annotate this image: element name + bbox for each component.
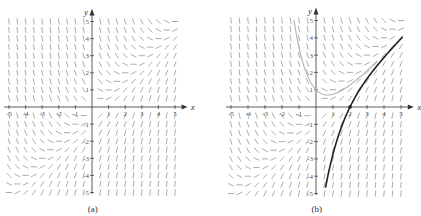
slope-segment <box>82 147 85 153</box>
slope-segment <box>48 165 52 170</box>
slope-segment <box>49 113 52 119</box>
slope-segment <box>66 87 68 93</box>
slope-segment <box>288 140 294 143</box>
slope-segment <box>231 69 232 75</box>
slope-segment <box>158 147 159 153</box>
slope-segment <box>157 78 159 84</box>
slope-segment <box>66 78 68 84</box>
slope-segment <box>273 95 275 101</box>
slope-segment <box>307 43 309 49</box>
slope-segment <box>131 45 135 50</box>
slope-segment <box>246 148 250 153</box>
slope-segment <box>17 112 19 118</box>
slope-segment <box>173 36 177 41</box>
slope-segment <box>17 78 18 84</box>
slope-segment <box>175 147 176 153</box>
slope-segment <box>125 147 126 153</box>
slope-segment <box>50 70 51 76</box>
slope-segment <box>65 156 68 161</box>
slope-segment <box>231 52 232 58</box>
slope-segment <box>264 52 265 58</box>
slope-segment <box>16 156 19 161</box>
slope-segment <box>349 156 350 162</box>
slope-segment <box>58 87 60 93</box>
slope-segment <box>9 18 10 24</box>
slope-segment <box>341 164 342 170</box>
slope-segment <box>305 131 309 136</box>
slope-segment <box>289 87 291 93</box>
slope-segment <box>140 87 143 93</box>
slope-segment <box>66 96 69 102</box>
slope-segment <box>25 70 26 76</box>
slope-segment <box>141 138 142 144</box>
slope-segment <box>166 95 168 101</box>
slope-segment <box>255 139 259 144</box>
slope-segment <box>382 61 386 66</box>
slope-segment <box>9 70 10 76</box>
slope-segment <box>288 123 294 126</box>
slope-segment <box>174 78 176 84</box>
slope-segment <box>254 148 258 153</box>
slope-segment <box>358 190 359 196</box>
slope-segment <box>358 182 359 188</box>
slope-segment <box>66 70 68 76</box>
slope-segment <box>264 69 265 75</box>
slope-segment <box>248 26 249 32</box>
slope-segment <box>8 147 10 153</box>
slope-segment <box>107 130 109 136</box>
slope-segment <box>322 113 326 118</box>
slope-segment <box>332 17 334 23</box>
slope-segment <box>166 78 168 84</box>
slope-segment <box>139 63 145 66</box>
slope-segment <box>108 36 110 42</box>
slope-segment <box>247 130 249 136</box>
x-tick-label: 3 <box>140 110 144 118</box>
slope-segment <box>272 182 275 188</box>
slope-segment <box>323 61 326 67</box>
slope-segment <box>131 79 135 84</box>
slope-segment <box>74 70 76 76</box>
slope-segment <box>401 130 402 136</box>
slope-segment <box>149 112 151 118</box>
slope-segment <box>9 35 10 41</box>
slope-segment <box>24 147 27 152</box>
slope-segment <box>340 35 342 41</box>
slope-segment <box>133 189 134 195</box>
slope-segment <box>366 138 367 144</box>
slope-segment <box>289 173 291 179</box>
slope-segment <box>123 44 126 49</box>
slope-segment <box>364 62 370 65</box>
slope-segment <box>230 147 232 153</box>
slope-segment <box>358 121 360 127</box>
slope-segment <box>100 18 101 24</box>
y-tick-label: 4 <box>310 34 314 42</box>
slope-segment <box>50 18 51 24</box>
slope-segment <box>17 53 18 59</box>
slope-field-figure: xy-5-4-3-2-11234554321-1-2-3-4-5(a) xy-5… <box>0 0 421 216</box>
slope-segment <box>367 190 368 196</box>
slope-segment <box>231 43 232 49</box>
slope-segment <box>149 121 150 127</box>
slope-segment <box>147 37 153 40</box>
slope-segment <box>272 113 275 119</box>
slope-segment <box>375 182 376 188</box>
slope-segment <box>272 191 274 197</box>
slope-segment <box>124 121 126 127</box>
y-tick-label: 2 <box>86 69 90 77</box>
slope-segment <box>75 181 77 187</box>
slope-segment <box>116 113 119 119</box>
slope-segment <box>74 78 76 84</box>
slope-segment <box>116 36 118 42</box>
slope-segment <box>290 17 291 23</box>
slope-segment <box>98 113 102 118</box>
slope-segment <box>158 172 159 178</box>
slope-segment <box>17 35 18 41</box>
slope-segment <box>282 26 283 32</box>
y-tick-label: -4 <box>307 173 313 181</box>
slope-segment <box>298 69 300 75</box>
slope-segment <box>239 35 240 41</box>
slope-segment <box>264 78 265 84</box>
slope-segment <box>116 155 117 161</box>
slope-segment <box>34 27 35 33</box>
slope-segment <box>392 95 394 101</box>
